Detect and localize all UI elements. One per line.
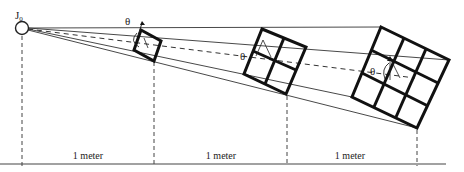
theta-label-3: θ [370, 65, 375, 77]
small-grid: θ [125, 15, 161, 61]
origin-label: J0 [15, 9, 23, 23]
distance-label-1: 1 meter [73, 150, 104, 161]
theta-label-1: θ [125, 15, 130, 27]
theta-label-2: θ [240, 50, 245, 62]
distance-label-3: 1 meter [335, 150, 366, 161]
origin-point [16, 22, 29, 35]
projection-diagram: J0 θ θ θ 1 meter 1 meter 1 meter [0, 0, 464, 172]
distance-label-2: 1 meter [206, 150, 237, 161]
center-ray [28, 29, 415, 78]
medium-grid: θ [240, 29, 306, 94]
large-grid: θ [352, 27, 449, 128]
diagram-canvas: J0 θ θ θ 1 meter 1 meter 1 meter [0, 0, 464, 172]
